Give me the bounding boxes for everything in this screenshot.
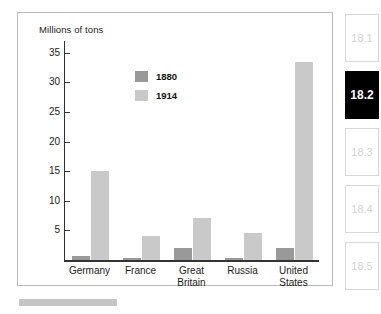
bar-1914-great-britain [193,218,211,260]
bars-layer [64,41,319,260]
bar-1880-germany [72,256,90,260]
y-axis-tick-label: 5 [34,224,60,235]
legend-label: 1880 [156,71,177,82]
y-axis-tick-label: 10 [34,195,60,206]
legend-item-1914: 1914 [135,90,177,101]
legend-label: 1914 [156,90,177,101]
bar-1880-france [123,258,141,260]
sidebar-tab-18.3[interactable]: 18.3 [345,128,379,176]
bar-group [64,41,115,260]
bar-1880-united-states [276,248,294,260]
sidebar-tab-18.2[interactable]: 18.2 [345,71,379,119]
chart-legend: 18801914 [135,71,177,109]
sidebar-tab-18.5[interactable]: 18.5 [345,242,379,290]
section-tabs-sidebar: 18.118.218.318.418.5 [345,14,379,296]
y-axis-title: Millions of tons [39,24,103,35]
bottom-rule-decoration [19,299,117,306]
x-axis-label-united-states: UnitedStates [268,265,319,288]
bar-1880-great-britain [174,248,192,260]
x-axis-line [64,260,319,262]
legend-item-1880: 1880 [135,71,177,82]
chart-figure: Millions of tons 5101520253035 GermanyFr… [17,12,333,286]
legend-swatch-icon [135,90,148,101]
x-axis-label-russia: Russia [217,265,268,277]
bar-1914-germany [91,171,109,260]
bar-1914-france [142,236,160,260]
bar-1880-russia [225,258,243,260]
y-axis-tick-label: 15 [34,165,60,176]
legend-swatch-icon [135,71,148,82]
x-axis-label-germany: Germany [64,265,115,277]
y-axis-tick-label: 25 [34,106,60,117]
plot-area: Millions of tons 5101520253035 GermanyFr… [18,13,332,285]
sidebar-tab-18.1[interactable]: 18.1 [345,14,379,62]
y-axis-tick-label: 20 [34,136,60,147]
sidebar-tab-18.4[interactable]: 18.4 [345,185,379,233]
bar-group [217,41,268,260]
y-axis-tick-label: 30 [34,76,60,87]
x-axis-label-france: France [115,265,166,277]
x-axis-label-great-britain: GreatBritain [166,265,217,288]
bar-1914-united-states [295,62,313,260]
y-axis-tick-label: 35 [34,47,60,58]
bar-1914-russia [244,233,262,260]
bar-group [268,41,319,260]
